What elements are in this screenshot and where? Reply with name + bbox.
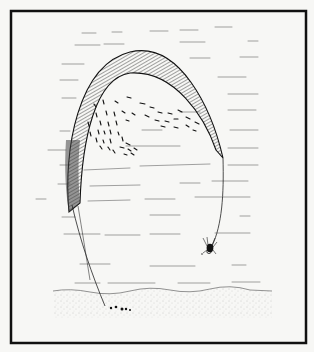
small-dot (201, 253, 203, 255)
left-thread-inner (78, 206, 90, 280)
drawing-canvas (0, 0, 314, 352)
ground (53, 287, 272, 318)
hatched-arch (65, 51, 223, 212)
